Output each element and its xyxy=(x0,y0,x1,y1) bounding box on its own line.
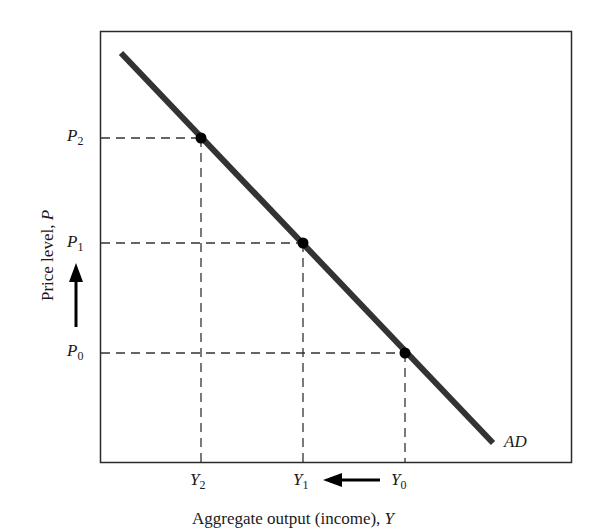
arrow-left-icon xyxy=(323,473,380,487)
x-axis-title: Aggregate output (income), Y xyxy=(192,510,394,527)
tick-label-y2: Y2 xyxy=(190,471,205,491)
plot-frame xyxy=(101,32,572,463)
curve-label-ad: AD xyxy=(504,433,527,450)
point-p0-y0 xyxy=(400,348,411,359)
y-axis-title: Price level, P xyxy=(39,201,56,311)
tick-label-p1: P1 xyxy=(67,233,83,253)
point-p2-y2 xyxy=(196,133,207,144)
ad-curve xyxy=(121,53,493,443)
point-p1-y1 xyxy=(298,238,309,249)
tick-label-y1: Y1 xyxy=(293,471,308,491)
arrow-up-icon xyxy=(69,263,83,327)
tick-label-p2: P2 xyxy=(67,127,83,147)
tick-label-p0: P0 xyxy=(67,342,83,362)
chart-canvas xyxy=(0,0,600,531)
tick-label-y0: Y0 xyxy=(391,471,406,491)
